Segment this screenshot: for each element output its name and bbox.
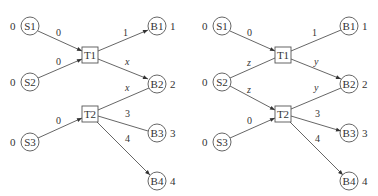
edge-label: 0 <box>56 27 61 38</box>
node-s1: 0 S1 <box>10 17 39 35</box>
node-value: 0 <box>10 76 16 88</box>
node-label: S1 <box>24 20 36 32</box>
node-value: 4 <box>170 175 176 187</box>
node-t1: T1 <box>82 47 98 63</box>
node-s3: 0 S3 <box>202 133 231 151</box>
node-label: S2 <box>216 76 228 88</box>
node-s3: 0 S3 <box>10 133 39 151</box>
edge-label: 0 <box>56 56 61 67</box>
node-value: 2 <box>362 78 368 90</box>
edge-t2-b3 <box>98 116 148 131</box>
left-diagram: 0 0 1 x x 0 3 4 0 S1 0 S2 0 S3 T1 <box>10 17 176 190</box>
node-s2: 0 S2 <box>202 73 231 91</box>
node-value: 1 <box>170 20 176 32</box>
node-s1: 0 S1 <box>202 17 231 35</box>
node-label: T1 <box>84 49 96 61</box>
edge-label: z <box>246 84 251 95</box>
node-label: B4 <box>151 175 164 187</box>
node-value: 0 <box>202 76 208 88</box>
node-label: B3 <box>151 127 164 139</box>
node-t1: T1 <box>275 47 291 63</box>
edge-label: 3 <box>125 108 130 119</box>
node-label: S1 <box>216 20 228 32</box>
node-value: 3 <box>362 127 368 139</box>
network-diagrams: 0 0 1 x x 0 3 4 0 S1 0 S2 0 S3 T1 <box>0 0 378 196</box>
node-b2: B2 2 <box>340 75 368 93</box>
node-label: B3 <box>343 127 356 139</box>
node-value: 1 <box>362 20 368 32</box>
edge-label: 1 <box>312 27 317 38</box>
node-label: S3 <box>216 136 228 148</box>
edge-s3-t2 <box>230 118 275 138</box>
node-label: B2 <box>343 78 356 90</box>
edge-label: x <box>124 82 130 93</box>
node-t2: T2 <box>82 106 98 122</box>
node-b4: B4 4 <box>148 172 176 190</box>
edge-label: z <box>246 57 251 68</box>
node-b1: B1 1 <box>148 17 176 35</box>
node-label: S2 <box>24 76 36 88</box>
node-label: T1 <box>277 49 289 61</box>
node-label: T2 <box>277 108 289 120</box>
node-value: 0 <box>10 136 16 148</box>
node-value: 0 <box>202 136 208 148</box>
edge-t2-b2 <box>98 88 149 110</box>
node-b1: B1 1 <box>340 17 368 35</box>
edge-label: 4 <box>315 133 320 144</box>
node-label: B1 <box>151 20 164 32</box>
edge-s2-t2 <box>230 86 275 110</box>
node-value: 0 <box>10 20 16 32</box>
node-s2: 0 S2 <box>10 73 39 91</box>
edge-label: 4 <box>125 133 130 144</box>
edge-label: 0 <box>247 115 252 126</box>
edge-label: 0 <box>247 27 252 38</box>
node-value: 2 <box>170 78 176 90</box>
edge-label: 1 <box>123 27 128 38</box>
edge-s1-t1 <box>230 31 275 51</box>
node-b4: B4 4 <box>340 172 368 190</box>
edge-label: x <box>124 56 130 67</box>
node-value: 4 <box>362 175 368 187</box>
right-diagram: 0 z 1 y z y 0 3 4 0 S1 0 S2 0 S3 T1 <box>202 17 368 190</box>
node-t2: T2 <box>275 106 291 122</box>
edge-label: 3 <box>315 108 320 119</box>
node-b3: B3 3 <box>340 124 368 142</box>
edge-label: y <box>313 56 319 67</box>
node-value: 0 <box>202 20 208 32</box>
edge-label: 0 <box>56 115 61 126</box>
edge-s2-t1 <box>230 58 275 78</box>
node-label: S3 <box>24 136 36 148</box>
node-value: 3 <box>170 127 176 139</box>
edge-label: y <box>313 82 319 93</box>
edge-t1-b2 <box>98 59 148 79</box>
node-label: B1 <box>343 20 356 32</box>
node-b3: B3 3 <box>148 124 176 142</box>
node-label: T2 <box>84 108 96 120</box>
node-label: B2 <box>151 78 164 90</box>
node-b2: B2 2 <box>148 75 176 93</box>
node-label: B4 <box>343 175 356 187</box>
